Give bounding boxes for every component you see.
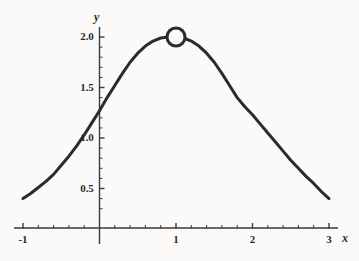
y-tick-label: 0.5: [66, 182, 94, 194]
x-axis-label: x: [342, 231, 348, 246]
y-axis-label: y: [94, 10, 99, 25]
axes-group: [14, 27, 338, 244]
x-tick-label: -1: [9, 233, 37, 245]
x-axis-ticks: [23, 223, 329, 229]
data-curve: [23, 37, 329, 199]
x-tick-label: 1: [162, 233, 190, 245]
peak-marker: [167, 28, 185, 46]
x-tick-label: 2: [239, 233, 267, 245]
x-tick-label: 3: [315, 233, 343, 245]
chart-figure: 0.51.01.52.0 -1123 y x: [0, 0, 359, 261]
plot-canvas: [0, 0, 359, 261]
y-tick-label: 1.5: [66, 81, 94, 93]
y-tick-label: 1.0: [66, 131, 94, 143]
y-tick-label: 2.0: [66, 30, 94, 42]
data-markers: [167, 28, 185, 46]
